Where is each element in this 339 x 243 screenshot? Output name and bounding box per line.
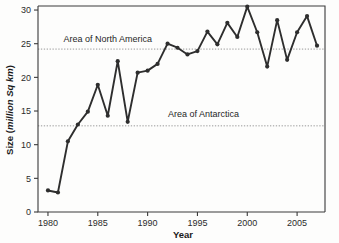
reference-line-label: Area of Antarctica (168, 109, 239, 119)
x-tick-labels-group: 198019851990199520002005 (38, 218, 307, 228)
x-tick-label: 1985 (88, 218, 108, 228)
data-point-marker (86, 110, 90, 114)
chart-container: 051015202530 198019851990199520002005 Ar… (0, 0, 339, 243)
y-tick-label: 20 (21, 73, 31, 83)
data-point-marker (255, 30, 259, 34)
data-point-marker (265, 64, 269, 68)
x-tick-label: 1995 (187, 218, 207, 228)
y-tick-label: 10 (21, 140, 31, 150)
data-point-marker (225, 21, 229, 25)
data-point-marker (46, 188, 50, 192)
data-point-marker (195, 49, 199, 53)
y-tick-labels-group: 051015202530 (21, 5, 31, 217)
y-tick-label: 5 (26, 174, 31, 184)
y-tick-label: 0 (26, 207, 31, 217)
data-point-marker (146, 69, 150, 73)
x-tick-label: 2005 (287, 218, 307, 228)
y-tick-label: 15 (21, 106, 31, 116)
data-point-marker (305, 14, 309, 18)
data-point-marker (56, 190, 60, 194)
data-point-marker (66, 139, 70, 143)
data-point-marker (285, 58, 289, 62)
data-point-marker (76, 122, 80, 126)
data-point-marker (126, 120, 130, 124)
y-axis-title: Size (million Sq km) (4, 65, 15, 155)
data-point-marker (175, 46, 179, 50)
y-tick-label: 30 (21, 5, 31, 15)
data-point-marker (315, 44, 319, 48)
data-point-marker (116, 59, 120, 63)
line-chart: 051015202530 198019851990199520002005 Ar… (0, 0, 339, 243)
data-point-marker (165, 42, 169, 46)
data-point-marker (235, 35, 239, 39)
data-point-marker (245, 5, 249, 9)
x-tick-label: 2000 (237, 218, 257, 228)
x-tick-label: 1980 (38, 218, 58, 228)
y-tick-label: 25 (21, 39, 31, 49)
data-point-marker (215, 42, 219, 46)
data-point-marker (106, 114, 110, 118)
data-point-marker (96, 83, 100, 87)
data-point-marker (136, 71, 140, 75)
data-point-marker (155, 62, 159, 66)
x-axis-title: Year (173, 229, 193, 240)
data-point-marker (185, 52, 189, 56)
x-tick-label: 1990 (138, 218, 158, 228)
reference-line-label: Area of North America (63, 34, 152, 44)
data-point-marker (275, 18, 279, 22)
data-point-marker (205, 29, 209, 33)
data-point-marker (295, 30, 299, 34)
